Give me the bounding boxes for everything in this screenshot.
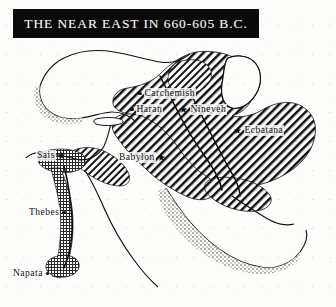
city-marker-star: ★	[57, 151, 67, 161]
city-label-ecbatana: ★ Ecbatana	[232, 125, 284, 136]
city-name: Ecbatana	[244, 125, 285, 136]
city-label-babylon: Babylon ★	[118, 152, 167, 163]
city-label-sais: Sais ★	[36, 150, 67, 161]
city-name: Carchemish	[144, 88, 196, 99]
city-label-carchemish: Carchemish	[136, 88, 196, 99]
island-cyprus	[94, 118, 123, 126]
map-title-text: THE NEAR EAST IN 660-605 B.C.	[24, 16, 247, 32]
city-label-napata: Napata	[12, 268, 51, 279]
city-name: Nineveh	[190, 104, 228, 115]
city-name: Napata	[12, 268, 44, 279]
city-label-nineveh: ★ Nineveh	[178, 104, 227, 115]
city-marker-star: ★	[179, 105, 189, 115]
city-label-thebes: Thebes	[28, 207, 68, 218]
city-marker-dot	[130, 108, 134, 112]
city-marker-dot	[46, 272, 50, 276]
city-marker-dot	[62, 211, 66, 215]
city-name: Sais	[36, 150, 56, 161]
city-name: Thebes	[28, 207, 60, 218]
city-name: Haran	[136, 104, 164, 115]
city-marker-star: ★	[233, 126, 243, 136]
map-title-banner: THE NEAR EAST IN 660-605 B.C.	[14, 10, 258, 37]
city-name: Babylon	[118, 152, 156, 163]
city-marker-dot	[138, 92, 142, 96]
city-label-haran: Haran	[128, 104, 163, 115]
city-marker-star: ★	[157, 153, 167, 163]
historical-map-figure: THE NEAR EAST IN 660-605 B.C. Carchemish…	[0, 0, 336, 307]
